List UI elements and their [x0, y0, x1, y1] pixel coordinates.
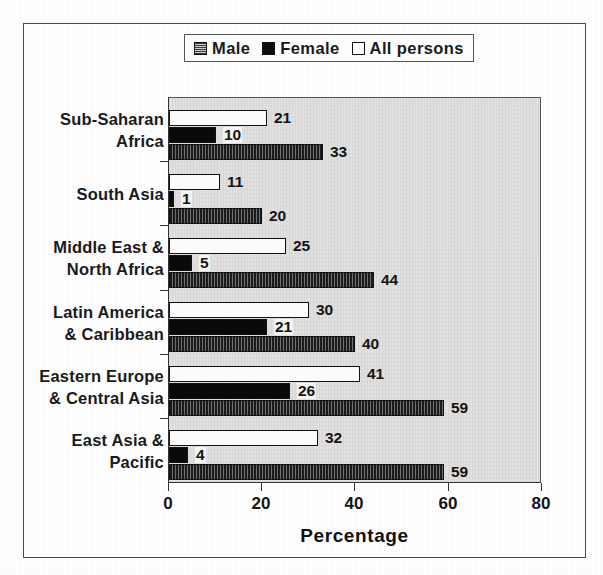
bar-value-male: 20 [269, 208, 286, 224]
y-label-line: & Caribbean [24, 324, 164, 346]
bar-male[interactable] [169, 400, 444, 416]
bar-value-female: 1 [181, 191, 192, 207]
bar-row-all-persons: 25 [169, 238, 310, 254]
bar-row-male: 59 [169, 400, 468, 416]
x-axis-tick-label-0: 0 [138, 494, 198, 514]
bar-value-female: 5 [199, 255, 210, 271]
bar-all-persons[interactable] [169, 430, 318, 446]
bar-male[interactable] [169, 464, 444, 480]
bar-value-all-persons: 30 [316, 302, 333, 318]
bar-all-persons[interactable] [169, 366, 360, 382]
bar-value-male: 59 [451, 400, 468, 416]
bar-value-female: 26 [297, 383, 316, 399]
bar-row-male: 40 [169, 336, 379, 352]
bar-male[interactable] [169, 272, 374, 288]
legend-label-male: Male [212, 39, 250, 58]
bar-row-all-persons: 21 [169, 110, 291, 126]
bar-row-female: 10 [169, 127, 242, 143]
x-axis-title: Percentage [168, 525, 541, 547]
female-swatch-icon [262, 42, 275, 55]
bar-value-all-persons: 11 [227, 174, 243, 190]
bar-all-persons[interactable] [169, 302, 309, 318]
bar-value-male: 59 [451, 464, 468, 480]
bar-female[interactable] [169, 255, 192, 271]
y-axis-label-south-asia: South Asia [24, 184, 164, 206]
legend-label-female: Female [280, 39, 339, 58]
bar-row-male: 44 [169, 272, 398, 288]
bar-row-female: 21 [169, 319, 293, 335]
bar-all-persons[interactable] [169, 110, 267, 126]
bar-female[interactable] [169, 127, 216, 143]
y-label-line: Sub-Saharan [24, 109, 164, 131]
bar-female[interactable] [169, 383, 290, 399]
y-label-line: Latin America [24, 302, 164, 324]
bar-male[interactable] [169, 208, 262, 224]
x-axis-tick [448, 483, 449, 491]
y-label-line: & Central Asia [24, 388, 164, 410]
bar-male[interactable] [169, 336, 355, 352]
y-label-line: East Asia & [24, 430, 164, 452]
bar-row-female: 4 [169, 447, 206, 463]
bar-row-female: 26 [169, 383, 316, 399]
x-axis-tick [261, 483, 262, 491]
bar-value-female: 4 [195, 447, 206, 463]
legend-entry-female: Female [262, 39, 339, 58]
bar-value-all-persons: 32 [325, 430, 342, 446]
bar-row-all-persons: 30 [169, 302, 333, 318]
y-axis-label-east-asia-pacific: East Asia & Pacific [24, 430, 164, 474]
bar-female[interactable] [169, 191, 174, 207]
bar-row-female: 1 [169, 191, 192, 207]
bar-row-male: 33 [169, 144, 347, 160]
bar-value-male: 40 [362, 336, 379, 352]
bar-value-male: 33 [330, 144, 347, 160]
y-label-line: Eastern Europe [24, 366, 164, 388]
bar-male[interactable] [169, 144, 323, 160]
bar-female[interactable] [169, 447, 188, 463]
bar-value-female: 10 [223, 127, 242, 143]
plot-area: 21 10 33 11 1 20 25 [168, 97, 541, 483]
bar-all-persons[interactable] [169, 238, 286, 254]
y-axis-labels: Sub-Saharan Africa South Asia Middle Eas… [24, 97, 164, 483]
x-axis-tick-label-60: 60 [418, 494, 478, 514]
legend-label-all-persons: All persons [370, 39, 464, 58]
legend-entry-male: Male [194, 39, 250, 58]
x-axis-tick [541, 483, 542, 491]
bar-row-female: 5 [169, 255, 210, 271]
x-axis-tick [354, 483, 355, 491]
x-axis-tick-label-20: 20 [231, 494, 291, 514]
bar-value-all-persons: 21 [274, 110, 291, 126]
x-axis-tick-label-80: 80 [511, 494, 571, 514]
legend-entry-all-persons: All persons [352, 39, 464, 58]
y-axis-label-latin-america-caribbean: Latin America & Caribbean [24, 302, 164, 346]
x-axis-tick [168, 483, 169, 491]
y-axis-label-eastern-europe-central-asia: Eastern Europe & Central Asia [24, 366, 164, 410]
bar-row-male: 20 [169, 208, 286, 224]
bar-value-female: 21 [274, 319, 293, 335]
y-label-line: South Asia [24, 184, 164, 206]
bar-value-male: 44 [381, 272, 398, 288]
bar-female[interactable] [169, 319, 267, 335]
bar-all-persons[interactable] [169, 174, 220, 190]
y-label-line: Middle East & [24, 237, 164, 259]
y-label-line: North Africa [24, 259, 164, 281]
bar-row-all-persons: 11 [169, 174, 243, 190]
bar-row-all-persons: 32 [169, 430, 342, 446]
y-label-line: Africa [24, 131, 164, 153]
bar-row-male: 59 [169, 464, 468, 480]
bar-value-all-persons: 41 [367, 366, 384, 382]
chart-legend: Male Female All persons [184, 34, 474, 62]
y-axis-label-middle-east-north-africa: Middle East & North Africa [24, 237, 164, 281]
y-axis-label-sub-saharan-africa: Sub-Saharan Africa [24, 109, 164, 153]
all-persons-swatch-icon [352, 42, 365, 55]
bar-row-all-persons: 41 [169, 366, 384, 382]
male-swatch-icon [194, 42, 207, 55]
y-label-line: Pacific [24, 452, 164, 474]
bar-value-all-persons: 25 [293, 238, 310, 254]
x-axis-tick-label-40: 40 [324, 494, 384, 514]
